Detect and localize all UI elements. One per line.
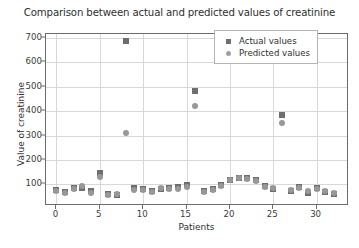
x-tick-label: 20: [223, 209, 234, 219]
data-point-predicted: [288, 187, 294, 193]
x-tick-mark: [229, 205, 230, 209]
x-tick-label: 25: [267, 209, 278, 219]
chart-figure: Comparison between actual and predicted …: [0, 0, 359, 248]
data-point-predicted: [158, 185, 164, 191]
y-tick-mark: [41, 85, 45, 86]
data-point-actual: [123, 38, 129, 44]
x-tick-mark: [186, 205, 187, 209]
y-tick-mark: [41, 183, 45, 184]
y-tick-mark: [41, 134, 45, 135]
data-point-predicted: [71, 186, 77, 192]
data-point-predicted: [236, 175, 242, 181]
data-point-predicted: [296, 185, 302, 191]
x-tick-label: 0: [53, 209, 58, 219]
x-tick-label: 15: [180, 209, 191, 219]
chart-legend: Actual values Predicted values: [214, 30, 318, 64]
y-tick-label: 600: [26, 56, 42, 66]
data-point-predicted: [184, 184, 190, 190]
gridline-horizontal: [46, 160, 347, 161]
predicted-values-marker-icon: [220, 51, 236, 56]
legend-label-predicted: Predicted values: [236, 48, 310, 58]
gridline-vertical: [143, 34, 144, 204]
data-point-predicted: [253, 178, 259, 184]
data-point-predicted: [114, 191, 120, 197]
y-tick-label: 400: [26, 105, 42, 115]
x-tick-label: 5: [96, 209, 101, 219]
data-point-predicted: [262, 184, 268, 190]
data-point-predicted: [149, 189, 155, 195]
data-point-predicted: [218, 183, 224, 189]
y-tick-mark: [41, 110, 45, 111]
legend-item-actual: Actual values: [220, 35, 310, 47]
x-tick-mark: [316, 205, 317, 209]
chart-title: Comparison between actual and predicted …: [0, 7, 359, 18]
y-tick-mark: [41, 61, 45, 62]
legend-label-actual: Actual values: [236, 36, 297, 46]
data-point-predicted: [140, 187, 146, 193]
y-tick-label: 200: [26, 154, 42, 164]
x-tick-mark: [272, 205, 273, 209]
y-axis-label: Value of creatinine: [16, 59, 26, 189]
data-point-predicted: [279, 120, 285, 126]
data-point-predicted: [175, 186, 181, 192]
data-point-predicted: [62, 190, 68, 196]
x-tick-mark: [142, 205, 143, 209]
data-point-actual: [279, 112, 285, 118]
gridline-vertical: [187, 34, 188, 204]
data-point-predicted: [105, 192, 111, 198]
gridline-horizontal: [46, 136, 347, 137]
data-point-predicted: [244, 176, 250, 182]
gridline-horizontal: [46, 87, 347, 88]
x-tick-label: 10: [137, 209, 148, 219]
data-point-predicted: [270, 185, 276, 191]
y-tick-label: 100: [26, 178, 42, 188]
data-point-predicted: [131, 187, 137, 193]
y-tick-label: 300: [26, 130, 42, 140]
x-tick-mark: [55, 205, 56, 209]
gridline-horizontal: [46, 111, 347, 112]
data-point-predicted: [227, 177, 233, 183]
x-axis-label: Patients: [45, 222, 348, 232]
data-point-predicted: [79, 183, 85, 189]
data-point-predicted: [210, 187, 216, 193]
data-point-predicted: [322, 188, 328, 194]
x-tick-label: 30: [310, 209, 321, 219]
x-tick-mark: [99, 205, 100, 209]
actual-values-marker-icon: [220, 39, 236, 44]
y-tick-label: 700: [26, 32, 42, 42]
data-point-predicted: [166, 186, 172, 192]
y-tick-mark: [41, 158, 45, 159]
gridline-vertical: [56, 34, 57, 204]
data-point-predicted: [305, 188, 311, 194]
legend-item-predicted: Predicted values: [220, 47, 310, 59]
data-point-predicted: [314, 186, 320, 192]
data-point-predicted: [88, 190, 94, 196]
data-point-actual: [192, 88, 198, 94]
data-point-predicted: [331, 190, 337, 196]
data-point-predicted: [97, 174, 103, 180]
y-tick-label: 500: [26, 81, 42, 91]
data-point-predicted: [201, 189, 207, 195]
data-point-predicted: [192, 103, 198, 109]
y-tick-mark: [41, 36, 45, 37]
data-point-predicted: [123, 130, 129, 136]
data-point-predicted: [53, 188, 59, 194]
